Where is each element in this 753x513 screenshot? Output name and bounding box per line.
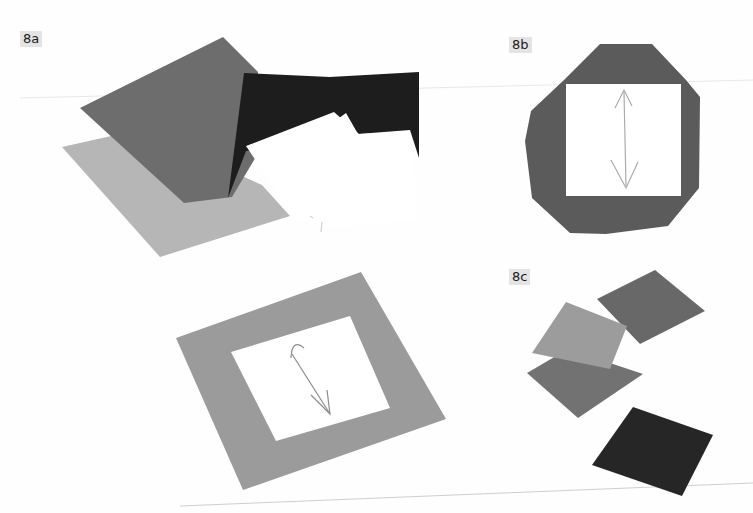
panel-8c-squares: [527, 270, 713, 496]
panel-label-8a: 8a: [20, 31, 42, 47]
panel-8a-frame: [176, 272, 446, 490]
figure-illustration: [0, 0, 753, 513]
panel-8b-octagon: [525, 44, 700, 234]
panel-8a-stack: [62, 37, 419, 257]
figure-canvas: 8a 8b 8c: [0, 0, 753, 513]
panel-label-8c: 8c: [509, 269, 530, 285]
white-square-template: [566, 84, 681, 196]
panel-label-8b: 8b: [509, 37, 532, 53]
black-felt-square: [592, 407, 713, 496]
